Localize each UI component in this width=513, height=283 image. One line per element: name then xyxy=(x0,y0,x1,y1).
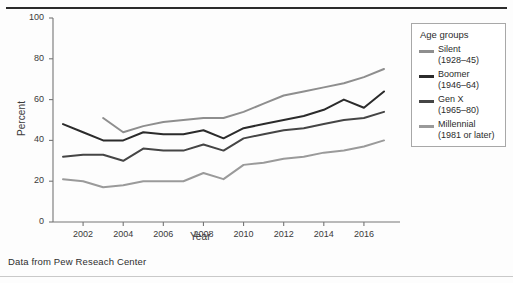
y-tick-label: 60 xyxy=(20,94,44,104)
legend-label-name: Silent xyxy=(438,44,461,54)
chart-figure: Percent Year 020406080100 20022004200620… xyxy=(0,9,513,254)
y-tick-label: 40 xyxy=(20,134,44,144)
series-line-millennial xyxy=(63,140,384,187)
series-lines-group xyxy=(63,69,384,187)
axes-group xyxy=(49,18,400,226)
y-tick-label: 80 xyxy=(20,53,44,63)
legend-label-name: Gen X xyxy=(438,94,464,104)
x-tick-label: 2006 xyxy=(148,229,178,239)
legend-label-years: (1928–45) xyxy=(438,55,479,65)
bottom-divider-rule xyxy=(0,276,513,277)
y-tick-label: 20 xyxy=(20,175,44,185)
x-tick-label: 2002 xyxy=(68,229,98,239)
x-tick-label: 2014 xyxy=(309,229,339,239)
legend-swatch-icon xyxy=(419,75,434,78)
source-caption: Data from Pew Reseach Center xyxy=(8,256,146,267)
series-line-boomer xyxy=(63,91,384,140)
legend-title: Age groups xyxy=(420,29,469,40)
legend-swatch-icon xyxy=(419,100,434,103)
x-tick-label: 2016 xyxy=(349,229,379,239)
x-tick-label: 2008 xyxy=(188,229,218,239)
legend-label-name: Millennial xyxy=(438,119,476,129)
x-tick-label: 2010 xyxy=(229,229,259,239)
chart-page: Percent Year 020406080100 20022004200620… xyxy=(0,0,513,283)
legend-swatch-icon xyxy=(419,50,434,53)
x-tick-label: 2004 xyxy=(108,229,138,239)
legend-swatch-icon xyxy=(419,125,434,128)
chart-legend: Age groups Silent(1928–45)Boomer(1946–64… xyxy=(411,23,506,147)
y-tick-label: 0 xyxy=(20,216,44,226)
legend-label-years: (1981 or later) xyxy=(438,130,495,140)
y-tick-label: 100 xyxy=(20,12,44,22)
legend-label-years: (1965–80) xyxy=(438,105,479,115)
x-tick-label: 2012 xyxy=(269,229,299,239)
series-line-gen-x xyxy=(63,112,384,161)
legend-label-years: (1946–64) xyxy=(438,80,479,90)
legend-label-name: Boomer xyxy=(438,69,470,79)
